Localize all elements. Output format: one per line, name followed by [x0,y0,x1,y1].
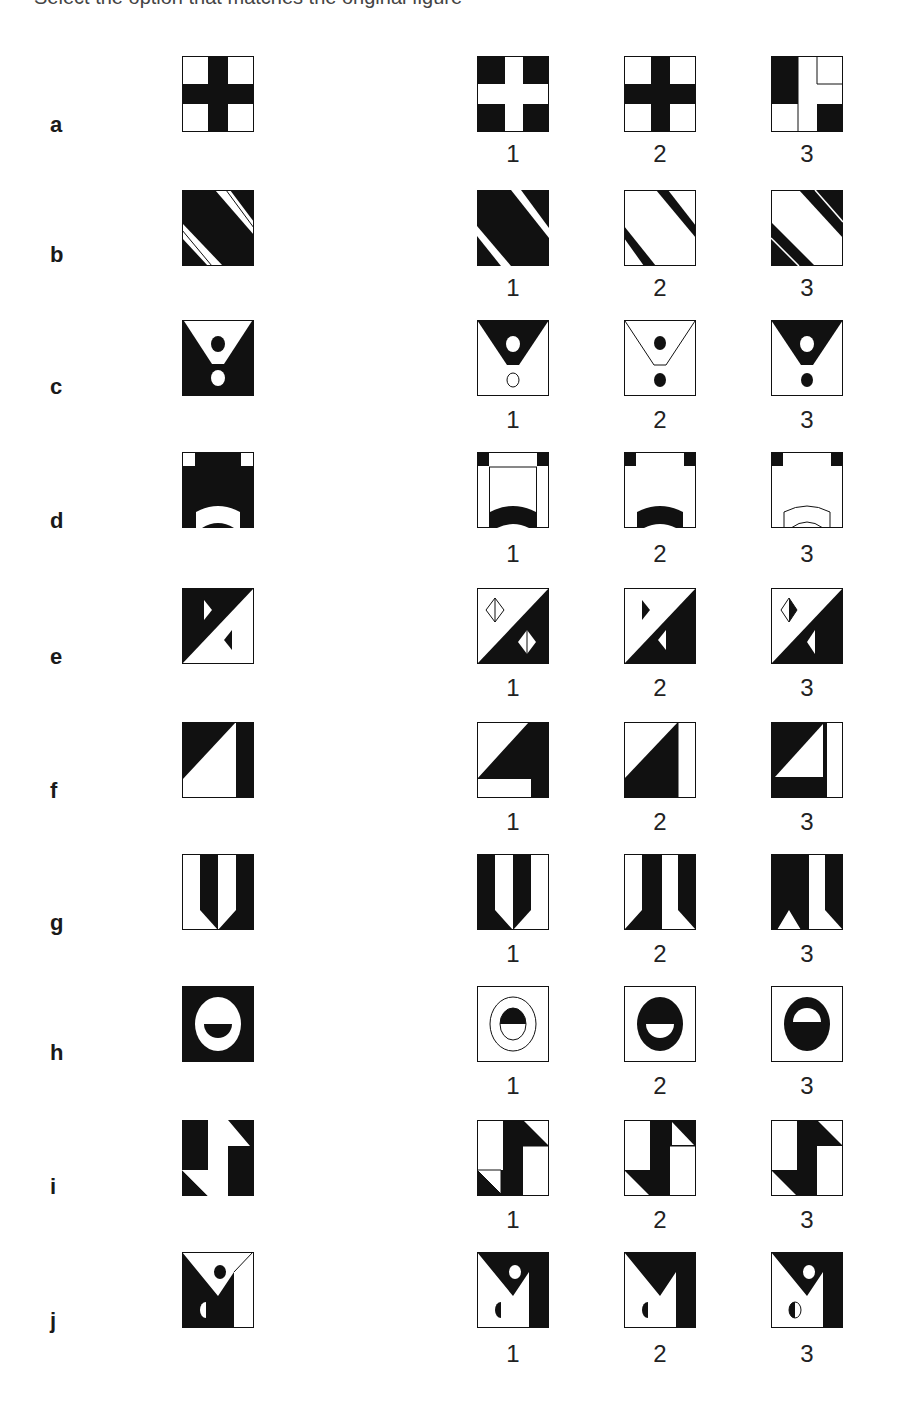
option-2[interactable] [624,854,696,930]
option-1[interactable] [477,1120,549,1196]
row-label: e [50,644,62,670]
option-number: 2 [624,140,696,168]
option-number: 2 [624,274,696,302]
option-2[interactable] [624,1120,696,1196]
option-1[interactable] [477,56,549,132]
original-figure [182,320,254,396]
original-figure [182,722,254,798]
option-number: 1 [477,540,549,568]
row-e: e 1 2 3 [0,586,900,720]
option-1[interactable] [477,588,549,664]
original-figure [182,452,254,528]
option-3[interactable] [771,722,843,798]
original-figure [182,854,254,930]
option-number: 2 [624,1340,696,1368]
option-number: 1 [477,406,549,434]
option-3[interactable] [771,190,843,266]
original-figure [182,190,254,266]
option-number: 1 [477,140,549,168]
row-c: c 1 2 3 [0,316,900,450]
row-j: j 1 2 3 [0,1250,900,1384]
original-figure [182,986,254,1062]
option-2[interactable] [624,56,696,132]
option-number: 1 [477,1206,549,1234]
row-d: d 1 2 3 [0,450,900,584]
option-2[interactable] [624,320,696,396]
option-3[interactable] [771,854,843,930]
option-1[interactable] [477,1252,549,1328]
option-number: 1 [477,940,549,968]
option-number: 2 [624,406,696,434]
option-number: 3 [771,808,843,836]
row-f: f 1 2 3 [0,720,900,854]
option-number: 3 [771,274,843,302]
option-2[interactable] [624,452,696,528]
row-label: f [50,778,57,804]
option-number: 2 [624,808,696,836]
row-a: a 1 2 3 [0,52,900,186]
option-number: 2 [624,1072,696,1100]
option-number: 3 [771,1072,843,1100]
option-3[interactable] [771,452,843,528]
option-number: 3 [771,940,843,968]
cut-off-instruction-text: Select the option that matches the origi… [34,0,462,9]
option-1[interactable] [477,320,549,396]
option-number: 1 [477,274,549,302]
option-number: 3 [771,406,843,434]
option-number: 3 [771,674,843,702]
option-1[interactable] [477,190,549,266]
row-label: i [50,1174,56,1200]
option-3[interactable] [771,56,843,132]
option-1[interactable] [477,986,549,1062]
original-figure [182,56,254,132]
option-number: 2 [624,940,696,968]
option-2[interactable] [624,986,696,1062]
option-2[interactable] [624,190,696,266]
option-number: 1 [477,1340,549,1368]
original-figure [182,1252,254,1328]
option-number: 1 [477,674,549,702]
option-3[interactable] [771,320,843,396]
row-i: i 1 2 3 [0,1118,900,1252]
original-figure [182,588,254,664]
row-label: d [50,508,63,534]
row-b: b 1 2 3 [0,186,900,320]
option-number: 3 [771,1340,843,1368]
option-number: 2 [624,674,696,702]
option-3[interactable] [771,986,843,1062]
option-3[interactable] [771,1120,843,1196]
row-label: j [50,1308,56,1334]
option-2[interactable] [624,588,696,664]
row-label: g [50,910,63,936]
row-label: h [50,1040,63,1066]
option-3[interactable] [771,1252,843,1328]
option-1[interactable] [477,722,549,798]
option-number: 1 [477,1072,549,1100]
row-label: b [50,242,63,268]
option-number: 3 [771,540,843,568]
option-1[interactable] [477,452,549,528]
row-h: h 1 2 3 [0,984,900,1118]
original-figure [182,1120,254,1196]
option-3[interactable] [771,588,843,664]
option-2[interactable] [624,1252,696,1328]
option-number: 2 [624,1206,696,1234]
row-label: c [50,374,62,400]
option-2[interactable] [624,722,696,798]
option-1[interactable] [477,854,549,930]
option-number: 1 [477,808,549,836]
option-number: 2 [624,540,696,568]
row-label: a [50,112,62,138]
option-number: 3 [771,1206,843,1234]
row-g: g 1 2 3 [0,852,900,986]
option-number: 3 [771,140,843,168]
